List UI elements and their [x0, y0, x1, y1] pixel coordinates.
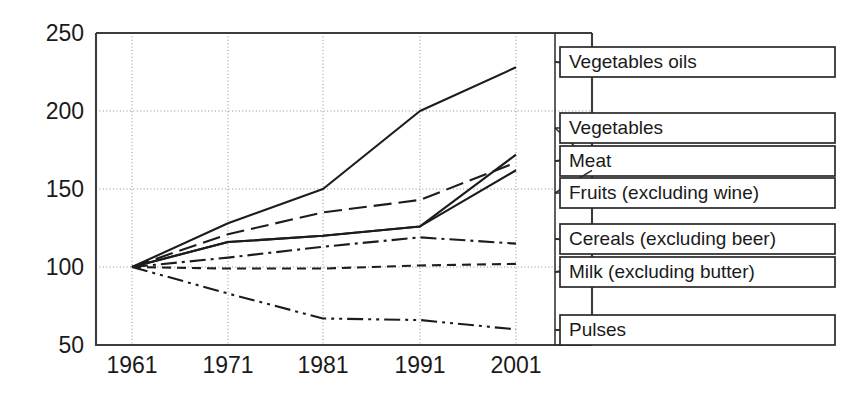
y-tick-label: 100 — [46, 254, 84, 280]
chart-svg: 50100150200250 19611971198119912001 Vege… — [0, 0, 842, 400]
legend-label: Meat — [569, 150, 612, 171]
legend-label: Fruits (excluding wine) — [569, 182, 759, 203]
x-tick-label: 1961 — [106, 352, 157, 378]
y-axis-tick-labels: 50100150200250 — [46, 20, 84, 358]
legend-item[interactable]: Pulses — [555, 315, 835, 345]
x-tick-label: 2001 — [490, 352, 541, 378]
legend-label: Milk (excluding butter) — [569, 261, 755, 282]
legend: Vegetables oilsVegetablesMeatFruits (exc… — [555, 33, 835, 345]
legend-item[interactable]: Meat — [555, 146, 835, 176]
legend-item[interactable]: Milk (excluding butter) — [555, 257, 835, 287]
legend-label: Cereals (excluding beer) — [569, 228, 776, 249]
legend-label: Vegetables — [569, 117, 663, 138]
legend-item[interactable]: Cereals (excluding beer) — [555, 224, 835, 254]
y-tick-label: 50 — [58, 332, 84, 358]
y-tick-label: 250 — [46, 20, 84, 46]
gridlines — [96, 33, 592, 345]
series-line-pulses — [132, 267, 516, 329]
x-axis-tick-labels: 19611971198119912001 — [106, 352, 541, 378]
x-tick-label: 1991 — [394, 352, 445, 378]
legend-label: Vegetables oils — [569, 51, 697, 72]
x-tick-label: 1981 — [297, 352, 348, 378]
x-tick-label: 1971 — [202, 352, 253, 378]
series-line-vegetables-oils — [132, 67, 516, 267]
legend-item[interactable]: Vegetables oils — [555, 47, 835, 77]
line-chart: 50100150200250 19611971198119912001 Vege… — [0, 0, 842, 400]
y-tick-label: 200 — [46, 98, 84, 124]
series-line-meat — [132, 155, 516, 267]
series-line-milk-excluding-butter — [132, 264, 516, 269]
y-tick-label: 150 — [46, 176, 84, 202]
legend-label: Pulses — [569, 319, 626, 340]
series-lines — [132, 67, 516, 329]
